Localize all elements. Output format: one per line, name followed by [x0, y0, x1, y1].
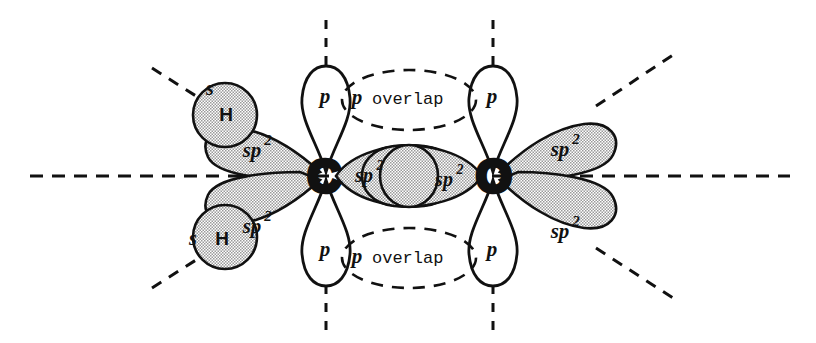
carbon-p-bottom-label: p: [318, 237, 331, 261]
oxygen-atom-label: O: [476, 150, 512, 202]
oxygen-sp2-ur-base: sp: [550, 137, 570, 161]
orbital-diagram: C O p p p p p overlap p overlap sp 2 sp …: [0, 0, 816, 343]
carbon-sp2-ul-base: sp: [242, 138, 262, 162]
oxygen-sp2-lr-exponent: 2: [571, 213, 580, 229]
s-orbital-lower-label: s: [188, 227, 197, 249]
carbon-sp2-sigma-base: sp: [354, 164, 373, 187]
hydrogen-upper-label: H: [219, 104, 233, 125]
carbon-sp2-ul-exponent: 2: [263, 132, 272, 148]
carbon-p-top-label: p: [318, 84, 331, 108]
oxygen-p-bottom-label: p: [485, 237, 498, 261]
p-overlap-top-word: overlap: [372, 90, 443, 109]
sigma-overlap-region: [380, 145, 438, 207]
carbon-sp2-ll-base: sp: [242, 214, 262, 238]
p-overlap-bottom-prefix: p: [350, 244, 363, 268]
oxygen-p-top-label: p: [485, 84, 498, 108]
carbon-sp2-ll-exponent: 2: [263, 208, 272, 224]
orbital-diagram-canvas: C O p p p p p overlap p overlap sp 2 sp …: [0, 0, 816, 343]
p-overlap-bottom-word: overlap: [372, 249, 443, 268]
carbon-sp2-sigma-exponent: 2: [376, 158, 384, 173]
p-overlap-top-prefix: p: [350, 85, 363, 109]
carbon-atom-label: C: [307, 150, 340, 202]
s-orbital-upper-label: s: [205, 77, 214, 99]
oxygen-sp2-sigma-exponent: 2: [456, 162, 464, 177]
oxygen-sp2-sigma-base: sp: [434, 168, 453, 191]
oxygen-sp2-ur-exponent: 2: [571, 131, 580, 147]
oxygen-sp2-lr-base: sp: [550, 219, 570, 243]
hydrogen-lower-label: H: [215, 228, 229, 249]
